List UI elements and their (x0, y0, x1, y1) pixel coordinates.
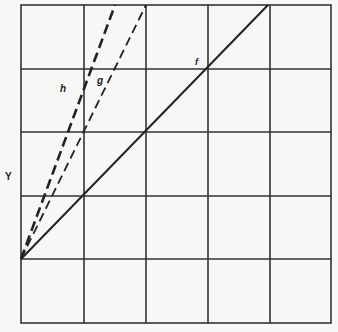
axis-label-y: Y (5, 171, 12, 182)
label-g: g (96, 75, 103, 86)
label-f: f (195, 57, 199, 67)
label-h: h (60, 83, 66, 94)
grid-diagram: h g f Y (0, 0, 338, 332)
